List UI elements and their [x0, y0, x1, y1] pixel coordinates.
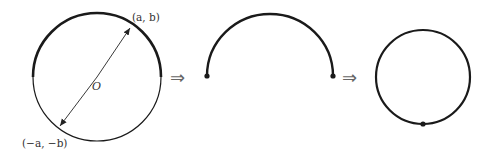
- diagram-canvas: (a, b) (−a, −b) O ⇒ ⇒: [0, 0, 496, 152]
- label-neg-a-neg-b: (−a, −b): [22, 137, 67, 149]
- label-a-b: (a, b): [132, 11, 160, 23]
- implies-arrow-icon: ⇒: [170, 67, 185, 88]
- diameter-arrow: [97, 28, 130, 77]
- implies-arrow-icon: ⇒: [342, 67, 357, 88]
- endpoint-right-dot: [330, 73, 335, 78]
- endpoint-left-dot: [204, 73, 209, 78]
- stage-semicircle: [204, 14, 335, 79]
- identified-point-dot: [420, 121, 425, 126]
- result-circle: [376, 30, 470, 124]
- stage-circle: (a, b) (−a, −b) O: [22, 11, 161, 149]
- stage-result-circle: [376, 30, 470, 127]
- semicircle-arc: [207, 14, 333, 76]
- label-center-o: O: [92, 80, 101, 93]
